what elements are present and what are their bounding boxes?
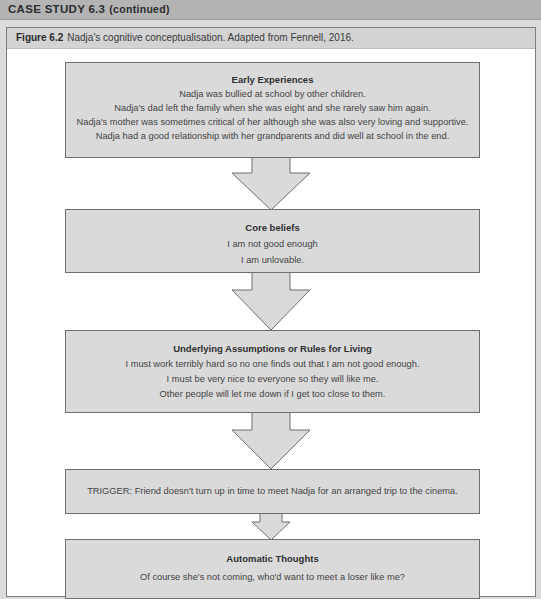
automatic-thought-item: Of course she's not coming, who'd want t… <box>66 570 479 584</box>
core-belief-item: I am unlovable. <box>66 253 479 267</box>
early-experience-item: Nadja's mother was sometimes critical of… <box>66 115 479 129</box>
core-belief-item: I am not good enough <box>66 237 479 251</box>
underlying-assumptions-title: Underlying Assumptions or Rules for Livi… <box>66 342 479 356</box>
automatic-thoughts-title: Automatic Thoughts <box>66 552 479 566</box>
trigger-text: TRIGGER: Friend doesn't turn up in time … <box>66 484 479 498</box>
core-beliefs-title: Core beliefs <box>66 221 479 235</box>
early-experience-item: Nadja had a good relationship with her g… <box>66 129 479 143</box>
trigger-box: TRIGGER: Friend doesn't turn up in time … <box>65 469 480 514</box>
underlying-assumptions-box: Underlying Assumptions or Rules for Livi… <box>65 330 480 413</box>
assumption-item: Other people will let me down if I get t… <box>66 387 479 401</box>
core-beliefs-box: Core beliefs I am not good enough I am u… <box>65 209 480 273</box>
assumption-item: I must work terribly hard so no one find… <box>66 357 479 371</box>
automatic-thoughts-box: Automatic Thoughts Of course she's not c… <box>65 539 480 599</box>
assumption-item: I must be very nice to everyone so they … <box>66 372 479 386</box>
early-experiences-title: Early Experiences <box>66 73 479 87</box>
early-experiences-box: Early Experiences Nadja was bullied at s… <box>65 62 480 158</box>
early-experience-item: Nadja was bullied at school by other chi… <box>66 87 479 101</box>
early-experience-item: Nadja's dad left the family when she was… <box>66 101 479 115</box>
